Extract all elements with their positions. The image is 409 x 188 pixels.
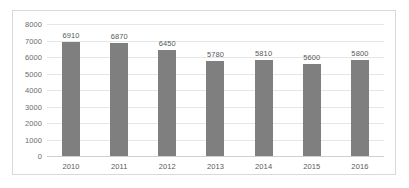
- bar-value-label: 5600: [303, 53, 320, 62]
- bar-group: 58002016: [336, 24, 384, 156]
- bar-value-label: 5780: [207, 50, 224, 59]
- bar-value-label: 5810: [255, 49, 272, 58]
- bar-value-label: 5800: [351, 49, 368, 58]
- bar-value-label: 6450: [159, 39, 176, 48]
- bar[interactable]: [158, 50, 176, 156]
- y-axis-tick-label: 1000: [25, 135, 42, 144]
- bar-group: 64502012: [143, 24, 191, 156]
- x-axis-category-label: 2015: [303, 162, 320, 171]
- bar[interactable]: [351, 60, 369, 156]
- x-axis-category-label: 2014: [255, 162, 272, 171]
- y-axis-tick-label: 8000: [25, 20, 42, 29]
- bar-group: 57802013: [191, 24, 239, 156]
- x-axis-category-label: 2013: [207, 162, 224, 171]
- bar-group: 69102010: [47, 24, 95, 156]
- bar[interactable]: [206, 61, 224, 156]
- bar-value-label: 6870: [111, 32, 128, 41]
- y-axis-tick-label: 4000: [25, 86, 42, 95]
- y-axis-tick-label: 3000: [25, 102, 42, 111]
- y-axis-tick-label: 7000: [25, 36, 42, 45]
- bar-group: 56002015: [288, 24, 336, 156]
- y-axis-tick-label: 2000: [25, 119, 42, 128]
- bar[interactable]: [110, 43, 128, 156]
- bar-value-label: 6910: [63, 31, 80, 40]
- x-axis-category-label: 2011: [111, 162, 128, 171]
- bar[interactable]: [62, 42, 80, 156]
- bar-group: 58102014: [240, 24, 288, 156]
- plot-area: 800070006000500040003000200010000 691020…: [47, 24, 384, 156]
- x-axis-category-label: 2012: [159, 162, 176, 171]
- y-axis-tick-label: 6000: [25, 53, 42, 62]
- y-axis-tick-label: 5000: [25, 69, 42, 78]
- bar[interactable]: [303, 64, 321, 156]
- y-axis-tick-label: 0: [38, 152, 42, 161]
- chart-frame: 800070006000500040003000200010000 691020…: [12, 10, 396, 175]
- bar-series: 6910201068702011645020125780201358102014…: [47, 24, 384, 156]
- bar[interactable]: [255, 60, 273, 156]
- axis-baseline: 0: [47, 156, 384, 157]
- bar-group: 68702011: [95, 24, 143, 156]
- x-axis-category-label: 2010: [63, 162, 80, 171]
- x-axis-category-label: 2016: [351, 162, 368, 171]
